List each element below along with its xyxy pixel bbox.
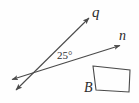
ray-q [16, 18, 89, 90]
geometry-figure: q n 25° B [0, 0, 139, 103]
ray-n-label: n [119, 29, 126, 43]
quadrilateral-b [93, 66, 130, 92]
angle-measure-label: 25° [57, 50, 72, 61]
ray-q-label: q [92, 5, 100, 20]
quadrilateral-b-label: B [84, 81, 93, 95]
